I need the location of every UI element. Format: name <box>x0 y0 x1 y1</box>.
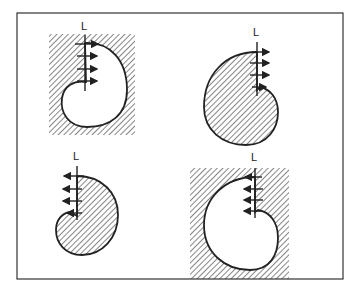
label-L: L <box>253 26 259 38</box>
spiral-diagram: L L L L <box>0 0 362 296</box>
panel-bottom-right: L <box>190 151 289 279</box>
label-L: L <box>73 150 79 162</box>
panel-bottom-left: L <box>56 150 118 255</box>
label-L: L <box>81 20 87 32</box>
panel-top-right: L <box>204 26 278 145</box>
panel-top-left: L <box>49 20 135 135</box>
label-L: L <box>251 151 257 163</box>
